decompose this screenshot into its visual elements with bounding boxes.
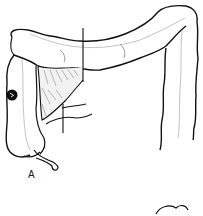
haustral-fold [60, 50, 65, 62]
transverse-colon-upper-outline [11, 6, 197, 42]
partial-figure-b-outline [156, 206, 188, 214]
colon-resection-illustration [0, 0, 203, 216]
ascending-taenia-vessel [22, 60, 30, 150]
terminal-ileum-upper [62, 104, 86, 108]
transverse-colon-lower-outline [14, 26, 186, 70]
appendix [34, 150, 58, 170]
ascending-colon-outer-outline [6, 55, 30, 157]
haustral-fold [120, 44, 125, 58]
haustral-fold [11, 37, 14, 55]
descending-colon-inner-outline [160, 48, 166, 150]
descending-colon-outer-outline [193, 22, 198, 140]
descending-taenia-vessel [178, 30, 182, 138]
transverse-taenia-vessel [30, 18, 185, 48]
panel-label: A [28, 169, 35, 180]
tumor [7, 90, 18, 101]
terminal-ileum-lower [46, 114, 92, 124]
